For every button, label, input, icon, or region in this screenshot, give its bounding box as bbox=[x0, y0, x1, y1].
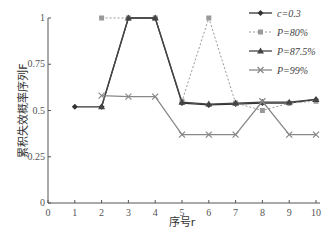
x-tick-label: 7 bbox=[233, 207, 238, 218]
legend-label: P=87.5% bbox=[276, 46, 316, 57]
data-point bbox=[99, 16, 104, 21]
legend-marker bbox=[258, 10, 264, 16]
x-tick-label: 9 bbox=[287, 207, 292, 218]
y-tick-label: 0 bbox=[40, 197, 45, 208]
legend-label: c=0.3 bbox=[277, 8, 301, 19]
x-tick-label: 1 bbox=[72, 207, 77, 218]
y-tick-label: 0.5 bbox=[33, 105, 46, 116]
x-tick-label: 0 bbox=[46, 207, 51, 218]
line-chart: 01234567891000.250.50.751序号r累积失效概率序列Fc=0… bbox=[0, 0, 332, 236]
x-tick-label: 6 bbox=[206, 207, 211, 218]
legend-label: P=99% bbox=[276, 65, 308, 76]
x-tick-label: 4 bbox=[153, 207, 158, 218]
x-tick-label: 3 bbox=[126, 207, 131, 218]
data-point bbox=[260, 108, 265, 113]
x-tick-label: 2 bbox=[99, 207, 104, 218]
y-tick-label: 1 bbox=[40, 12, 45, 23]
x-tick-label: 10 bbox=[311, 207, 321, 218]
legend-label: P=80% bbox=[276, 27, 308, 38]
y-tick-label: 0.75 bbox=[28, 58, 46, 69]
y-tick-label: 0.25 bbox=[28, 151, 46, 162]
data-point bbox=[72, 104, 78, 110]
x-tick-label: 8 bbox=[260, 207, 265, 218]
y-axis-label: 累积失效概率序列F bbox=[16, 63, 30, 157]
x-axis-label: 序号r bbox=[169, 215, 196, 229]
data-point bbox=[206, 16, 211, 21]
legend-marker bbox=[258, 30, 263, 35]
